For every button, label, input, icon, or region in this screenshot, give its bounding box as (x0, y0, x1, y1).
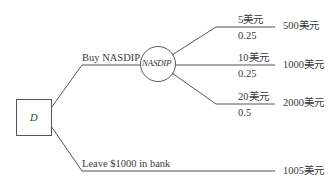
bank-payoff: 1005美元 (283, 166, 324, 177)
outcome-2-probability: 0.25 (238, 69, 256, 80)
buy-branch-label: Buy NASDIP (82, 53, 140, 64)
outcome-2-price: 10美元 (238, 53, 269, 64)
decision-node-label: D (30, 113, 38, 124)
outcome-3-price: 20美元 (238, 92, 269, 103)
outcome-1-payoff: 500美元 (283, 21, 319, 32)
outcome-branch-line-1 (172, 27, 275, 55)
outcome-3-payoff: 2000美元 (283, 98, 324, 109)
bank-branch-label: Leave $1000 in bank (82, 159, 170, 170)
outcome-1-price: 5美元 (238, 15, 263, 26)
outcome-1-probability: 0.25 (238, 31, 256, 42)
outcome-2-payoff: 1000美元 (283, 60, 324, 71)
buy-branch-line (51, 65, 140, 108)
outcome-3-probability: 0.5 (238, 108, 251, 119)
chance-node-label: NASDIP (142, 59, 171, 68)
